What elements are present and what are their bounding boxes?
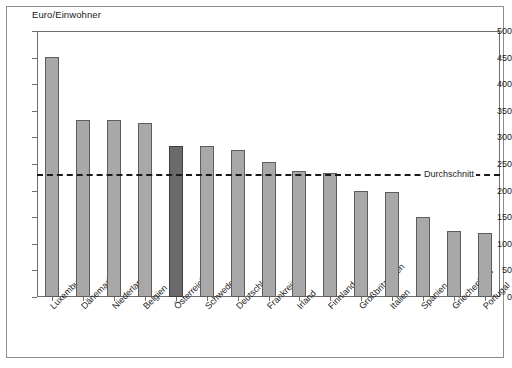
- average-line-label: Durchschnitt: [422, 170, 476, 179]
- bar-gro-britannien: [354, 191, 368, 297]
- y-axis-tick-label: 250: [482, 160, 512, 169]
- bar-spanien: [416, 217, 430, 297]
- bar-finnland: [323, 173, 337, 297]
- y-axis-tick-mark: [32, 84, 37, 85]
- bar-d-nemark: [76, 120, 90, 297]
- bar-deutschland: [231, 150, 245, 297]
- y-axis-tick-mark: [32, 244, 37, 245]
- y-axis-tick-label: 350: [482, 106, 512, 115]
- y-axis-tick-mark: [32, 191, 37, 192]
- y-axis-unit-caption: Euro/Einwohner: [32, 9, 101, 20]
- bar-schweden: [200, 146, 214, 297]
- y-axis-tick-label: 150: [482, 213, 512, 222]
- y-axis-tick-mark: [32, 31, 37, 32]
- bar-belgien: [138, 123, 152, 297]
- y-axis-tick-label: 450: [482, 53, 512, 62]
- bar-irland: [292, 171, 306, 297]
- bar-luxemburg: [45, 57, 59, 297]
- y-axis-tick-label: 200: [482, 186, 512, 195]
- y-axis-tick-mark: [32, 58, 37, 59]
- chart-figure: Euro/Einwohner 0501001502002503003504004…: [0, 0, 512, 368]
- y-axis-tick-mark: [32, 217, 37, 218]
- y-axis-tick-mark: [32, 137, 37, 138]
- y-axis-tick-mark: [32, 164, 37, 165]
- y-axis-tick-mark: [32, 297, 37, 298]
- bar-portugal: [478, 233, 492, 297]
- y-axis-tick-label: 500: [482, 27, 512, 36]
- y-axis-tick-label: 400: [482, 80, 512, 89]
- bar--sterreich: [169, 146, 183, 297]
- y-axis-tick-mark: [32, 111, 37, 112]
- y-axis-tick-label: 300: [482, 133, 512, 142]
- bar-niederlande: [107, 120, 121, 297]
- bar-frankreich: [262, 162, 276, 297]
- bar-griechenland: [447, 231, 461, 298]
- y-axis-tick-mark: [32, 270, 37, 271]
- bar-italien: [385, 192, 399, 297]
